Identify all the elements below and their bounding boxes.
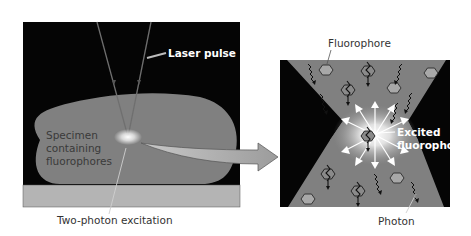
specimen-label-line2: containing	[46, 142, 101, 154]
excited-fluorophore-label-line2: fluorophore	[397, 139, 466, 151]
specimen-label-line1: Specimen	[46, 129, 98, 141]
left-panel: Laser pulse Specimen containing fluoroph…	[23, 22, 240, 214]
two-photon-diagram: Laser pulse Specimen containing fluoroph…	[0, 0, 471, 236]
two-photon-excitation-glow	[114, 129, 142, 145]
laser-pulse-label: Laser pulse	[168, 47, 236, 59]
photon-label: Photon	[378, 215, 415, 227]
two-photon-excitation-label: Two-photon excitation	[56, 214, 173, 226]
fluorophore-label: Fluorophore	[328, 37, 391, 49]
excited-fluorophore-label-line1: Excited	[397, 126, 440, 138]
specimen-label-line3: fluorophores	[46, 155, 112, 167]
microscope-slide	[23, 185, 240, 207]
